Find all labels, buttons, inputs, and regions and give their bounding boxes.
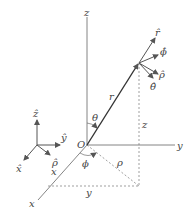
x-axis-label: x — [29, 198, 35, 209]
r-label: r — [109, 91, 115, 102]
legend-rho-hat-label: ρ̂ — [51, 157, 58, 168]
theta-hat-vector — [139, 63, 153, 78]
legend-x-hat-arrow — [24, 145, 37, 160]
z-axis-label: z — [83, 7, 90, 18]
theta-label: θ — [92, 112, 98, 123]
legend-rho-hat-arrow — [37, 145, 50, 155]
r-vector — [87, 64, 138, 145]
y-length-label: y — [85, 187, 92, 198]
x-axis — [38, 145, 87, 200]
rho-projection-dashed — [87, 145, 139, 186]
diagram-canvas: z y x O r θ ϕ ρ z x y r̂ ϕ̂ ρ̂ θ̂ ẑ ŷ x̂… — [0, 0, 194, 216]
origin-label: O — [77, 139, 85, 150]
y-axis-label: y — [176, 140, 183, 151]
rho-label: ρ — [116, 157, 123, 168]
legend-y-hat-label: ŷ — [60, 132, 67, 143]
legend-z-hat-label: ẑ — [32, 108, 39, 119]
z-length-label: z — [141, 119, 148, 130]
rho-hat-vector — [139, 63, 158, 74]
rho-hat-label: ρ̂ — [158, 69, 165, 80]
theta-arc — [87, 123, 97, 128]
phi-hat-label: ϕ̂ — [160, 46, 167, 57]
r-hat-label: r̂ — [155, 27, 161, 38]
coordinate-diagram: z y x O r θ ϕ ρ z x y r̂ ϕ̂ ρ̂ θ̂ ẑ ŷ x̂… — [0, 0, 194, 216]
legend-x-hat-label: x̂ — [16, 163, 22, 174]
theta-hat-label: θ̂ — [150, 81, 156, 92]
phi-label: ϕ — [82, 158, 89, 169]
phi-arc — [80, 153, 96, 156]
